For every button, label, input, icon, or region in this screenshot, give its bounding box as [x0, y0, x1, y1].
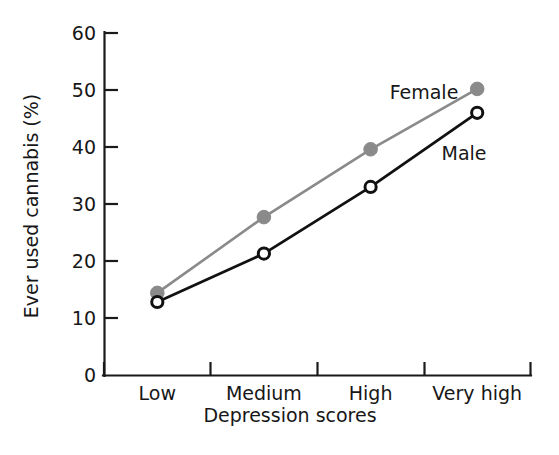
x-tick-label-very-high: Very high — [432, 382, 522, 404]
y-axis-title: Ever used cannabis (%) — [20, 94, 42, 319]
data-point-male-low — [152, 296, 163, 307]
chart-figure: 60 50 40 30 20 10 0 Low Medium High Very… — [0, 0, 559, 455]
x-tick-label-medium: Medium — [226, 382, 302, 404]
data-point-female-high — [364, 143, 378, 157]
x-tick-label-high: High — [349, 382, 393, 404]
y-tick-label-50: 50 — [72, 79, 96, 101]
series-label-female: Female — [390, 81, 459, 103]
y-tick-label-0: 0 — [84, 364, 96, 386]
y-tick-label-40: 40 — [72, 136, 96, 158]
y-tick-label-20: 20 — [72, 250, 96, 272]
data-point-male-medium — [258, 248, 269, 259]
data-point-male-very-high — [472, 107, 483, 118]
data-point-female-very-high — [470, 82, 484, 96]
line-chart: 60 50 40 30 20 10 0 Low Medium High Very… — [0, 0, 559, 455]
data-point-male-high — [365, 181, 376, 192]
y-tick-label-30: 30 — [72, 193, 96, 215]
y-tick-label-10: 10 — [72, 307, 96, 329]
series-line-female — [157, 89, 477, 293]
x-tick-label-low: Low — [139, 382, 176, 404]
data-point-female-medium — [257, 210, 271, 224]
series-line-male — [157, 113, 477, 302]
y-tick-label-60: 60 — [72, 22, 96, 44]
x-axis-title: Depression scores — [203, 404, 376, 426]
series-label-male: Male — [441, 142, 486, 164]
